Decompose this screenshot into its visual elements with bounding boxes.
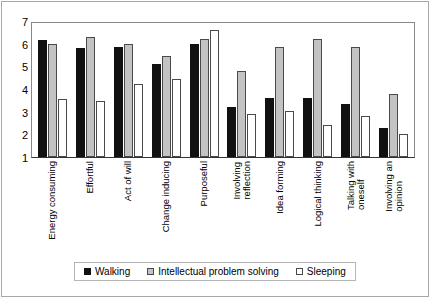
chart-legend: WalkingIntellectual problem solvingSleep… — [74, 262, 356, 281]
bar — [399, 134, 408, 157]
x-axis-label: Logical thinking — [313, 161, 323, 227]
bar — [275, 47, 284, 157]
legend-label: Walking — [95, 266, 130, 277]
x-axis-label-line: Change inducing — [160, 161, 171, 232]
bar — [96, 101, 105, 157]
bar-group — [299, 23, 337, 157]
x-axis-label-cell: Idea forming — [261, 159, 299, 251]
x-axis-label-line: opinion — [394, 161, 404, 212]
legend-label: Intellectual problem solving — [158, 266, 279, 277]
bar — [200, 39, 209, 157]
bar — [114, 47, 123, 157]
bar — [351, 47, 360, 157]
x-axis-label-cell: Change inducing — [147, 159, 185, 251]
bar — [237, 71, 246, 157]
x-axis-label: Involvingreflection — [232, 161, 252, 200]
bar — [210, 30, 219, 157]
x-axis-label-cell: Purposeful — [185, 159, 223, 251]
bar — [124, 44, 133, 157]
x-axis-labels: Energy consumingEffortfulAct of willChan… — [31, 159, 415, 251]
bar — [313, 39, 322, 157]
bar-chart: 1234567 Energy consumingEffortfulAct of … — [0, 0, 432, 300]
x-axis-label-line: Idea forming — [274, 161, 285, 214]
bar-groups — [32, 23, 414, 157]
x-axis-label-line: reflection — [242, 161, 252, 200]
bar-group — [34, 23, 72, 157]
bar — [58, 99, 67, 157]
x-axis-label: Act of will — [123, 161, 133, 201]
bar — [323, 125, 332, 157]
bar — [162, 56, 171, 157]
legend-item[interactable]: Sleeping — [296, 266, 346, 277]
bar-group — [147, 23, 185, 157]
bar — [86, 37, 95, 157]
x-axis-label-cell: Logical thinking — [299, 159, 337, 251]
bar — [38, 40, 47, 157]
y-axis-tick: 3 — [8, 108, 28, 119]
bar — [389, 94, 398, 157]
x-axis-label: Idea forming — [275, 161, 285, 214]
bar — [227, 107, 236, 157]
bar — [152, 64, 161, 157]
x-axis-label-cell: Involvingreflection — [223, 159, 261, 251]
legend-label: Sleeping — [307, 266, 346, 277]
bar — [361, 116, 370, 157]
y-axis-tick: 7 — [8, 17, 28, 28]
legend-swatch-icon — [296, 268, 303, 275]
bar-group — [72, 23, 110, 157]
bar-group — [110, 23, 148, 157]
y-axis-tick: 2 — [8, 130, 28, 141]
x-axis-label-cell: Energy consuming — [33, 159, 71, 251]
legend-swatch-icon — [84, 268, 91, 275]
y-axis: 1234567 — [8, 16, 28, 158]
x-axis-label: Involving anopinion — [384, 161, 404, 212]
bar — [285, 111, 294, 157]
x-axis-label: Purposeful — [199, 161, 209, 206]
bar — [48, 44, 57, 157]
x-axis-label-cell: Act of will — [109, 159, 147, 251]
x-axis-label: Change inducing — [161, 161, 171, 232]
x-axis-label-line: Effortful — [84, 161, 95, 194]
x-axis-label-cell: Effortful — [71, 159, 109, 251]
legend-item[interactable]: Walking — [84, 266, 130, 277]
y-axis-tick: 5 — [8, 62, 28, 73]
bar — [303, 98, 312, 157]
y-axis-tick: 6 — [8, 40, 28, 51]
bar — [190, 44, 199, 157]
bar — [265, 98, 274, 157]
bar — [379, 128, 388, 157]
bar — [247, 114, 256, 157]
x-axis-label-line: oneself — [356, 161, 366, 210]
x-axis-label-line: Energy consuming — [46, 161, 57, 240]
y-axis-tick: 4 — [8, 85, 28, 96]
x-axis-label-line: Logical thinking — [312, 161, 323, 227]
y-axis-tick: 1 — [8, 153, 28, 164]
bar-group — [185, 23, 223, 157]
x-axis-label-cell: Talking withoneself — [337, 159, 375, 251]
bar-group — [374, 23, 412, 157]
bar-group — [336, 23, 374, 157]
bar — [341, 104, 350, 157]
bar — [134, 84, 143, 157]
x-axis-label: Energy consuming — [47, 161, 57, 240]
bar — [76, 48, 85, 157]
plot-area — [31, 22, 415, 158]
x-axis-label-cell: Involving anopinion — [375, 159, 413, 251]
x-axis-label-line: Act of will — [122, 161, 133, 201]
legend-item[interactable]: Intellectual problem solving — [147, 266, 279, 277]
legend-swatch-icon — [147, 268, 154, 275]
bar — [172, 79, 181, 157]
x-axis-label: Talking withoneself — [346, 161, 366, 210]
x-axis-label-line: Purposeful — [198, 161, 209, 206]
bar-group — [261, 23, 299, 157]
x-axis-label: Effortful — [85, 161, 95, 194]
bar-group — [223, 23, 261, 157]
